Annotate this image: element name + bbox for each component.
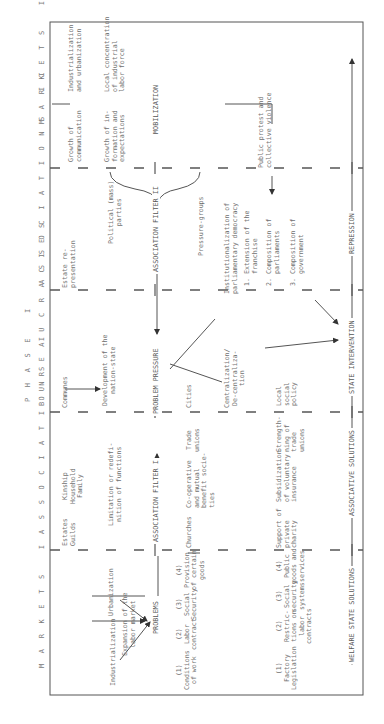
local-concentration-label: Local concentration of industrial labor … [104, 17, 127, 92]
kinship-label: Kinship Household Family [62, 468, 85, 504]
political-parties-label: Political (mass) parties [108, 180, 123, 244]
problem-2: (2)Labor contract [176, 618, 199, 650]
estate-representation-label: Estate re- presentation [62, 240, 77, 288]
association-filter-2-label: ASSOCIATION FILTER II [152, 184, 160, 274]
urbanization-label: Urbanization [108, 568, 116, 616]
problem-pressure-label: PROBLEM PRESSURE [152, 347, 160, 416]
public-protest-label: Public protest and collective violence [258, 93, 273, 168]
subsidization-label: Subsidization of voluntary insurance [276, 450, 299, 502]
welfare-solutions-label: WELFARE STATE SOLUTIONS [348, 566, 356, 664]
composition-parliaments: 2. Composition of parliaments [266, 219, 281, 287]
development-label: Development of the nation-state [102, 335, 117, 406]
association-filter-1-label: ASSOCIATION FILTER I [152, 458, 160, 544]
associative-solutions-label: ASSOCIATIVE SOLUTIONS [348, 428, 356, 518]
institutionalization-label: Institutionalization of parliamentary de… [224, 203, 239, 294]
diagram-border [50, 22, 363, 695]
composition-government: 3. Composition of government [290, 219, 305, 287]
local-policy-label: Local social policy [276, 382, 299, 406]
repression-label: REPRESSION [348, 211, 356, 256]
churches-label: Churches [186, 516, 194, 548]
communes-label: Communes [62, 376, 70, 408]
cities-label: Cities [186, 384, 194, 408]
extension-franchise: 1. Extension of the franchise [244, 211, 259, 286]
cooperative-label: Co-operative and mutual benefit socie- t… [186, 452, 216, 508]
header-markets-2: M A R K E T S I I [38, 0, 46, 124]
header-markets-1: M A R K E T S I [38, 542, 46, 668]
strengthening-label: Strength- ning of trade unions [276, 416, 306, 452]
solution-1: (1)Factory Legislation [276, 646, 299, 690]
expansion-label: Expansion of the labor market [122, 592, 137, 656]
industrialization-urbanization-label: Industrialization and urbanization [68, 25, 83, 93]
solution-4: (4)Public goods and services [276, 548, 306, 584]
solution-3: (3)Social security systems [276, 580, 306, 612]
support-charity-label: Support of private charity [276, 508, 299, 548]
growth-information-label: Growth of in- formation and expectations [104, 110, 127, 162]
pressure-groups-label: Pressure-groups [198, 196, 206, 256]
centralization-label: Centralization/ De-centraliza- tion [224, 348, 247, 408]
estates-guilds-label: Estates Guilds [62, 518, 77, 546]
problem-3: (3)Social Security [176, 588, 199, 620]
solution-2: (2)Restric- tions on labor contracts [276, 608, 314, 644]
state-intervention-label: STATE INTERVENTION [348, 318, 356, 396]
mobilization-label: MOBILIZATION [152, 83, 160, 136]
problem-1: (1)Conditions of work [176, 650, 199, 690]
trade-unions-label: Trade unions [186, 428, 201, 452]
problems-label: PROBLEMS [152, 599, 160, 636]
industrialization-label: Industrialization [110, 619, 118, 687]
phase-title: P H A S E I [24, 306, 32, 402]
diagram-canvas: M A R K E T S I A S S O C I A T I O N S … [0, 0, 384, 724]
problem-4: (4)Provision of certain goods [176, 550, 206, 590]
growth-communication-label: Growth of communication [68, 110, 83, 162]
limitation-label: Limitation or redefi- nition of function… [108, 443, 123, 526]
